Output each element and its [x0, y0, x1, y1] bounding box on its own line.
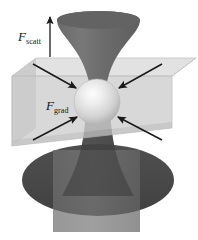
optical-tweezers-figure: Fscatt Fgrad: [0, 0, 198, 240]
label-scattering-force: Fscatt: [18, 30, 41, 43]
label-gradient-force: Fgrad: [46, 99, 69, 112]
dielectric-microsphere: [74, 79, 120, 125]
label-scatt-subscript: scatt: [26, 37, 41, 46]
label-scatt-symbol: F: [18, 29, 26, 44]
label-grad-symbol: F: [46, 98, 54, 113]
label-grad-subscript: grad: [54, 106, 69, 115]
